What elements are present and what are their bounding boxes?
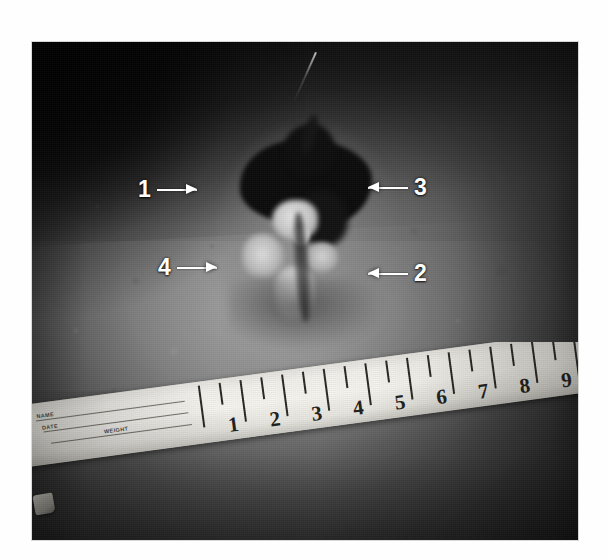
clinical-photograph: 123456789 NAMEDATEWEIGHT 1342: [32, 42, 578, 540]
arrow-head: [186, 184, 197, 194]
annotation-4: 4: [158, 256, 217, 279]
arrow-head: [368, 182, 379, 192]
page-canvas: 123456789 NAMEDATEWEIGHT 1342: [0, 0, 608, 559]
arrow-left-icon: [368, 182, 408, 193]
annotation-3: 3: [368, 176, 427, 199]
arrow-right-icon: [157, 184, 197, 195]
arrow-head: [368, 268, 379, 278]
annotation-label-4: 4: [158, 256, 171, 279]
arrow-head: [206, 262, 217, 272]
annotation-2: 2: [368, 262, 427, 285]
arrow-right-icon: [177, 262, 217, 273]
arrow-left-icon: [368, 268, 408, 279]
annotation-label-1: 1: [138, 178, 151, 201]
annotation-1: 1: [138, 178, 197, 201]
annotation-label-3: 3: [414, 176, 427, 199]
annotation-label-2: 2: [414, 262, 427, 285]
film-grain: [32, 42, 578, 540]
